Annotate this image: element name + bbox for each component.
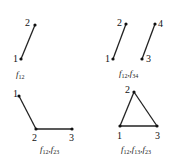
caption: f12 bbox=[16, 69, 25, 80]
node-label: 2 bbox=[125, 84, 130, 95]
node bbox=[140, 57, 143, 60]
node-label: 1 bbox=[13, 53, 18, 64]
caption: f12,f23 bbox=[40, 144, 59, 155]
node bbox=[155, 124, 158, 127]
graph-panel-2: 1234f12,f34 bbox=[105, 17, 163, 79]
node-label: 3 bbox=[146, 53, 151, 64]
node bbox=[70, 127, 73, 130]
node bbox=[33, 23, 36, 26]
node-label: 2 bbox=[117, 17, 122, 28]
edge bbox=[120, 92, 134, 126]
node-label: 1 bbox=[13, 88, 18, 99]
graph-diagrams: 12f121234f12,f34123f12,f23123f12,f13,f23 bbox=[0, 0, 172, 159]
edge bbox=[19, 96, 36, 129]
caption: f12,f13,f23 bbox=[121, 144, 151, 155]
edge bbox=[113, 24, 126, 59]
node bbox=[153, 22, 156, 25]
graph-panel-1: 12f12 bbox=[13, 17, 37, 80]
node bbox=[124, 22, 127, 25]
node-label: 2 bbox=[32, 132, 37, 143]
node bbox=[111, 57, 114, 60]
caption: f12,f34 bbox=[119, 68, 138, 79]
graph-panel-4: 123f12,f13,f23 bbox=[117, 84, 160, 155]
graph-panel-3: 123f12,f23 bbox=[13, 88, 74, 155]
node bbox=[34, 127, 37, 130]
node-label: 4 bbox=[158, 18, 163, 29]
node bbox=[132, 90, 135, 93]
node-label: 1 bbox=[117, 130, 122, 141]
node-label: 2 bbox=[25, 17, 30, 28]
node bbox=[19, 57, 22, 60]
node-label: 1 bbox=[105, 53, 110, 64]
diagram-svg: 12f121234f12,f34123f12,f23123f12,f13,f23 bbox=[0, 0, 172, 159]
node-label: 3 bbox=[69, 132, 74, 143]
edge bbox=[134, 92, 157, 126]
edge bbox=[21, 25, 35, 59]
node-label: 3 bbox=[155, 130, 160, 141]
node bbox=[118, 124, 121, 127]
